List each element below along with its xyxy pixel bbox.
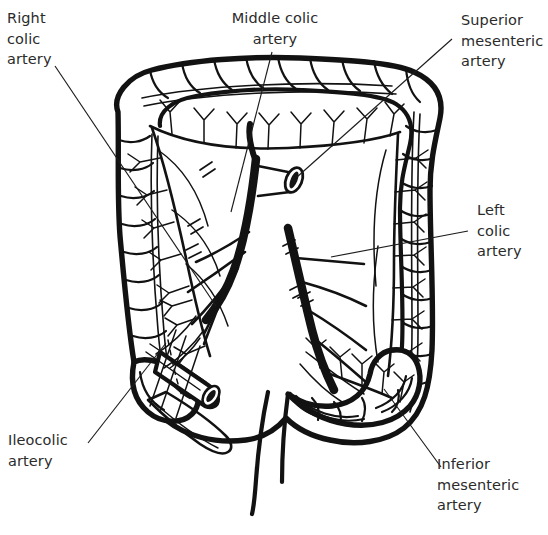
label-right-colic-artery: Right colic artery [7,8,99,70]
label-inferior-mesenteric-artery: Inferior mesenteric artery [437,454,541,516]
label-ileocolic-artery: Ileocolic artery [8,430,104,471]
label-middle-colic-artery: Middle colic artery [213,8,337,49]
label-left-colic-artery: Left colic artery [477,200,545,262]
label-superior-mesenteric-artery: Superior mesenteric artery [461,10,547,72]
anatomy-figure: .ink { fill:none; stroke:#121212; stroke… [0,0,548,535]
